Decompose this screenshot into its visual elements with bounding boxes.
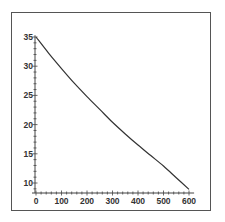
- y-tick-label: 25: [24, 90, 34, 100]
- y-tick-label: 30: [24, 61, 34, 71]
- y-tick-label: 35: [24, 32, 34, 42]
- x-tick-label: 500: [156, 196, 170, 206]
- y-tick-label: 15: [24, 149, 34, 159]
- x-axis: [32, 191, 194, 196]
- y-tick-label: 20: [24, 120, 34, 130]
- y-tick-labels: 101520253035: [24, 32, 34, 188]
- x-tick-label: 200: [80, 196, 94, 206]
- x-tick-label: 600: [182, 196, 196, 206]
- x-tick-labels: 0100200300400500600: [34, 196, 197, 206]
- data-series-line: [36, 37, 189, 189]
- x-tick-label: 0: [34, 196, 39, 206]
- x-tick-label: 100: [54, 196, 68, 206]
- y-axis: [33, 35, 38, 193]
- x-tick-label: 400: [131, 196, 145, 206]
- y-tick-label: 10: [24, 178, 34, 188]
- line-chart: 101520253035 0100200300400500600: [0, 0, 225, 222]
- x-tick-label: 300: [105, 196, 119, 206]
